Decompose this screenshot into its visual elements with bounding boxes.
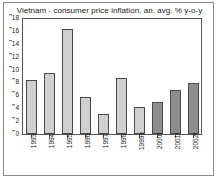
- bar-slot: [166, 18, 184, 134]
- y-tick-mark: [9, 53, 12, 54]
- x-axis-slot: 1996: [76, 135, 94, 181]
- x-axis-label-2001f: 2001f: [175, 133, 182, 149]
- x-axis-label-2000f: 2000f: [157, 133, 164, 149]
- y-tick-mark: [12, 117, 15, 118]
- y-axis-tick-12: 12: [12, 53, 23, 60]
- x-axis-slot: 2002f: [184, 135, 202, 181]
- y-axis-tick-4: 4: [15, 105, 23, 112]
- y-tick-mark: [9, 14, 12, 15]
- x-axis-slot: 1993: [22, 135, 40, 181]
- x-axis-slot: 1997: [94, 135, 112, 181]
- plot-area: 18 16 14 12 10 8 6 4 2 0: [22, 18, 202, 135]
- y-axis-tick-8: 8: [15, 79, 23, 86]
- bar-slot: [77, 18, 95, 134]
- x-axis-label-1999e: 1999e: [139, 132, 146, 150]
- x-axis-slot: 1994: [40, 135, 58, 181]
- bar-1999e[interactable]: [134, 107, 145, 134]
- y-axis-tick-14: 14: [12, 41, 23, 48]
- bar-group: [23, 18, 202, 134]
- chart-frame: Vietnam - consumer price inflation, an. …: [3, 2, 214, 176]
- y-axis-tick-6: 6: [15, 92, 23, 99]
- bar-1995[interactable]: [62, 29, 73, 134]
- bar-slot: [41, 18, 59, 134]
- y-tick-mark: [9, 27, 12, 28]
- y-axis-tick-18: 18: [12, 15, 23, 22]
- bar-slot: [184, 18, 202, 134]
- y-tick-mark: [12, 130, 15, 131]
- y-tick-mark: [12, 92, 15, 93]
- y-axis-tick-10: 10: [12, 66, 23, 73]
- chart-title: Vietnam - consumer price inflation, an. …: [4, 6, 215, 15]
- y-tick-mark: [9, 66, 12, 67]
- bar-2002f[interactable]: [188, 83, 199, 134]
- bar-2001f[interactable]: [170, 90, 181, 134]
- x-axis-label-2002f: 2002f: [193, 133, 200, 149]
- x-axis-slot: 1995: [58, 135, 76, 181]
- x-axis-label-1995: 1995: [67, 134, 74, 148]
- x-axis-label-1994: 1994: [49, 134, 56, 148]
- y-tick-mark: [12, 104, 15, 105]
- x-axis-label-1998: 1998: [121, 134, 128, 148]
- bar-slot: [130, 18, 148, 134]
- bar-1996[interactable]: [80, 97, 91, 134]
- x-axis-slot: 2000f: [148, 135, 166, 181]
- x-axis-label-1993: 1993: [31, 134, 38, 148]
- y-tick-mark: [12, 79, 15, 80]
- x-axis-slot: 2001f: [166, 135, 184, 181]
- y-axis-tick-16: 16: [12, 28, 23, 35]
- bar-1994[interactable]: [44, 73, 55, 134]
- bar-1993[interactable]: [26, 80, 37, 134]
- bar-1998[interactable]: [116, 78, 127, 134]
- x-axis: 1993 1994 1995 1996 1997 1998 1999e 2000…: [22, 135, 202, 181]
- bar-slot: [148, 18, 166, 134]
- y-axis-tick-2: 2: [15, 118, 23, 125]
- bar-slot: [23, 18, 41, 134]
- bar-slot: [113, 18, 131, 134]
- x-axis-slot: 1998: [112, 135, 130, 181]
- x-axis-label-1997: 1997: [103, 134, 110, 148]
- bar-1997[interactable]: [98, 114, 109, 134]
- bar-slot: [95, 18, 113, 134]
- y-tick-mark: [9, 40, 12, 41]
- x-axis-slot: 1999e: [130, 135, 148, 181]
- bar-2000f[interactable]: [152, 102, 163, 134]
- x-axis-label-1996: 1996: [85, 134, 92, 148]
- bar-slot: [59, 18, 77, 134]
